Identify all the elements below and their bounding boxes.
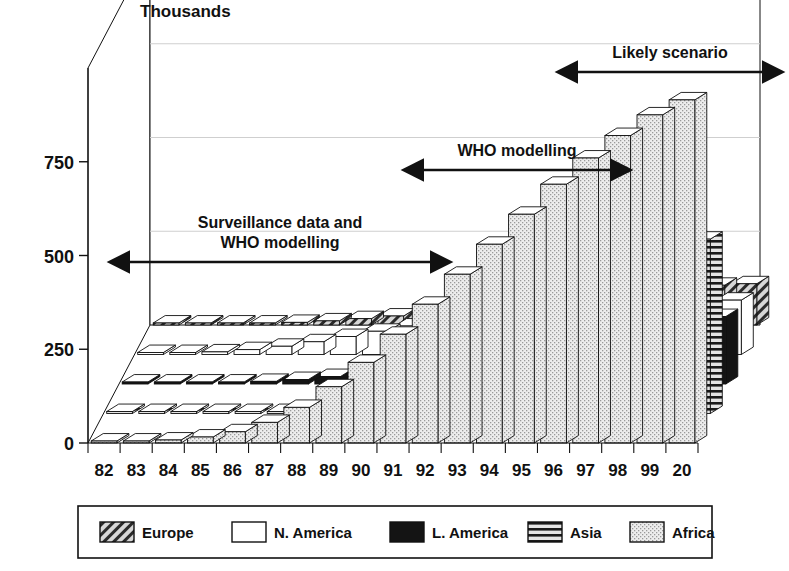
legend-item-africa[interactable]: Africa (630, 522, 715, 542)
x-axis-tick-label: 87 (255, 461, 274, 480)
x-axis-tick-label: 85 (191, 461, 210, 480)
axis-title: Thousands (140, 2, 231, 22)
annotation-label: Likely scenario (612, 44, 728, 61)
annotation-label: WHO modelling (457, 142, 576, 159)
legend-label: L. America (432, 524, 509, 541)
chart-figure: 0250500750828384858687888990919293949596… (0, 0, 789, 571)
x-axis-tick-label: 94 (480, 461, 499, 480)
x-axis-tick-label: 84 (159, 461, 178, 480)
annotation-label: WHO modelling (220, 234, 339, 251)
x-axis-tick-label: 90 (351, 461, 370, 480)
y-axis-tick-label: 0 (64, 434, 74, 454)
x-axis-tick-label: 89 (319, 461, 338, 480)
legend-swatch (390, 522, 424, 542)
legend-label: Europe (142, 524, 194, 541)
x-axis-tick-label: 88 (287, 461, 306, 480)
x-axis-tick-label: 93 (448, 461, 467, 480)
x-axis-tick-label: 83 (127, 461, 146, 480)
legend-swatch (232, 522, 266, 542)
y-axis-tick-label: 750 (44, 153, 74, 173)
legend-label: Africa (672, 524, 715, 541)
x-axis-tick-label: 92 (416, 461, 435, 480)
x-axis-tick-label: 86 (223, 461, 242, 480)
x-axis-tick-label: 20 (672, 461, 691, 480)
y-axis-tick-label: 250 (44, 340, 74, 360)
x-axis-tick-label: 98 (608, 461, 627, 480)
x-axis-tick-label: 96 (544, 461, 563, 480)
legend-label: Asia (570, 524, 602, 541)
y-axis-tick-label: 500 (44, 247, 74, 267)
legend-swatch (528, 522, 562, 542)
annotation-label: Surveillance data and (198, 214, 363, 231)
x-axis-tick-label: 97 (576, 461, 595, 480)
x-axis-tick-label: 95 (512, 461, 531, 480)
legend-swatch (630, 522, 664, 542)
legend-item-lamerica[interactable]: L. America (390, 522, 509, 542)
legend-label: N. America (274, 524, 352, 541)
x-axis-tick-label: 91 (384, 461, 403, 480)
legend-item-europe[interactable]: Europe (100, 522, 194, 542)
x-axis-tick-label: 82 (95, 461, 114, 480)
x-axis-tick-label: 99 (640, 461, 659, 480)
chart-canvas: 0250500750828384858687888990919293949596… (0, 0, 789, 571)
legend-item-namerica[interactable]: N. America (232, 522, 352, 542)
legend-swatch (100, 522, 134, 542)
